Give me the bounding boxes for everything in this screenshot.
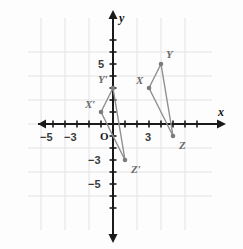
y-tick-label-5: 5 xyxy=(98,59,104,70)
x-axis-arrow-right xyxy=(217,120,226,129)
x-axis-label: x xyxy=(218,106,224,118)
y-axis-label: y xyxy=(119,12,124,24)
x-tick-label--3: −3 xyxy=(64,132,77,143)
y-axis-arrow-up xyxy=(109,10,118,19)
x-tick-label--5: −5 xyxy=(40,132,53,143)
vertex-point xyxy=(111,86,116,91)
vertex-point xyxy=(123,158,128,163)
vertex-point xyxy=(147,86,152,91)
coordinate-plane xyxy=(0,0,243,249)
y-tick-label--3: −3 xyxy=(88,155,101,166)
vertex-point xyxy=(171,134,176,139)
vertex-point xyxy=(99,110,104,115)
vertex-point xyxy=(159,62,164,67)
origin-label: O xyxy=(100,131,109,142)
x-axis-arrow-left xyxy=(38,120,46,129)
figure-canvas: XYZX′Y′Z′−5−335−3−5Oxy xyxy=(0,0,243,249)
y-tick-label--5: −5 xyxy=(88,179,101,190)
x-tick-label-3: 3 xyxy=(145,132,151,143)
y-axis-arrow-down xyxy=(109,234,118,243)
